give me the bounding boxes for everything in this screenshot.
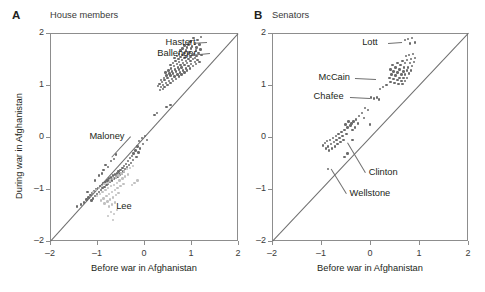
data-point: [104, 189, 106, 191]
data-point: [104, 164, 106, 166]
annotation-label: Ballenger: [157, 48, 196, 58]
x-axis-title-B: Before war in Afghanistan: [314, 263, 426, 273]
y-tick-B: [268, 137, 272, 138]
data-point: [337, 133, 339, 135]
x-tick-B: [370, 241, 371, 245]
x-tick-label-A: 0: [132, 248, 156, 258]
data-point: [111, 203, 113, 205]
data-point: [183, 71, 185, 73]
y-tick-label-A: 0: [22, 131, 44, 141]
data-point: [414, 41, 416, 43]
data-point: [398, 68, 400, 70]
data-point: [112, 196, 114, 198]
data-point: [113, 158, 115, 160]
y-tick-A: [46, 189, 50, 190]
y-tick-B: [268, 33, 272, 34]
y-tick-label-A: –1: [22, 183, 44, 193]
data-point: [389, 81, 391, 83]
data-point: [199, 48, 201, 50]
data-point: [132, 159, 134, 161]
data-point: [90, 199, 92, 201]
data-point: [117, 174, 119, 176]
x-tick-A: [144, 241, 145, 245]
data-point: [396, 71, 398, 73]
x-tick-label-B: 2: [456, 248, 480, 258]
data-point: [394, 66, 396, 68]
data-point: [136, 179, 138, 181]
data-point: [400, 73, 402, 75]
annotation-label: Clinton: [369, 167, 398, 177]
data-point: [189, 67, 191, 69]
data-point: [122, 183, 124, 185]
x-axis-title-A: Before war in Afghanistan: [88, 263, 200, 273]
data-point: [103, 183, 105, 185]
y-tick-label-B: –2: [244, 235, 266, 245]
data-point: [165, 106, 167, 108]
data-point: [119, 185, 121, 187]
data-point: [390, 73, 392, 75]
data-point: [161, 81, 163, 83]
data-point: [103, 202, 105, 204]
data-point: [133, 182, 135, 184]
x-tick-B: [321, 241, 322, 245]
data-point: [167, 69, 169, 71]
panel-title-B: Senators: [272, 10, 309, 20]
x-tick-A: [50, 241, 51, 245]
data-point: [102, 197, 104, 199]
panel-letter-A: A: [12, 9, 20, 21]
data-point: [164, 71, 166, 73]
y-tick-B: [268, 241, 272, 242]
data-point: [385, 84, 387, 86]
data-point: [388, 77, 390, 79]
data-point: [396, 79, 398, 81]
data-point: [153, 114, 155, 116]
y-tick-label-B: 0: [244, 131, 266, 141]
x-tick-B: [419, 241, 420, 245]
x-tick-A: [238, 241, 239, 245]
y-tick-label-B: 1: [244, 79, 266, 89]
data-point: [346, 126, 348, 128]
data-point: [166, 84, 168, 86]
y-axis-title-A: During war in Afghanistan: [14, 93, 24, 199]
data-point: [325, 147, 327, 149]
data-point: [174, 60, 176, 62]
y-tick-B: [268, 85, 272, 86]
annotation-label: Wellstone: [350, 188, 391, 198]
data-point: [177, 58, 179, 60]
data-point: [166, 77, 168, 79]
data-point: [394, 74, 396, 76]
data-point: [322, 144, 324, 146]
data-point: [120, 172, 122, 174]
annotation-label: Chafee: [314, 91, 344, 101]
data-point: [101, 185, 103, 187]
data-point: [100, 199, 102, 201]
data-point: [85, 198, 87, 200]
data-point: [389, 68, 391, 70]
y-tick-label-A: 2: [22, 27, 44, 37]
x-tick-label-A: 1: [179, 248, 203, 258]
data-point: [402, 70, 404, 72]
data-point: [351, 139, 353, 141]
figure-canvas: AHouse members–2–1012–2–1012Before war i…: [0, 0, 485, 292]
data-point: [340, 131, 342, 133]
data-point: [115, 176, 117, 178]
data-point: [338, 137, 340, 139]
x-tick-label-A: –1: [85, 248, 109, 258]
data-point: [343, 129, 345, 131]
x-tick-label-B: –2: [260, 248, 284, 258]
x-tick-label-A: 2: [226, 248, 250, 258]
data-point: [169, 74, 171, 76]
data-point: [131, 155, 133, 157]
data-point: [369, 123, 371, 125]
data-point: [335, 135, 337, 137]
data-point: [106, 182, 108, 184]
data-point: [345, 133, 347, 135]
data-point: [343, 156, 345, 158]
y-tick-A: [46, 85, 50, 86]
data-point: [350, 122, 352, 124]
data-point: [346, 152, 348, 154]
y-tick-B: [268, 189, 272, 190]
data-point: [175, 78, 177, 80]
data-point: [121, 177, 123, 179]
data-point: [373, 97, 375, 99]
